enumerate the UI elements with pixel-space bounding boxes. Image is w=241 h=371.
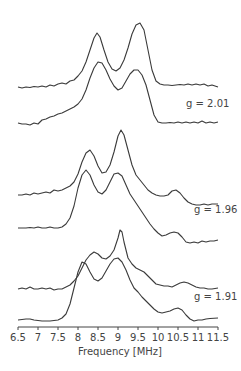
x-tick-label: 7.5 xyxy=(50,332,66,343)
x-tick-label: 10.5 xyxy=(167,332,189,343)
trace-g196-lower xyxy=(18,170,218,243)
x-axis-title: Frequency [MHz] xyxy=(78,346,162,357)
x-tick-label: 9.5 xyxy=(130,332,146,343)
x-tick-label: 9 xyxy=(115,332,121,343)
trace-g191-lower xyxy=(18,258,218,321)
x-tick-label: 7 xyxy=(35,332,41,343)
x-tick-label: 6.5 xyxy=(10,332,26,343)
x-tick-label: 11.5 xyxy=(207,332,229,343)
x-tick-label: 11 xyxy=(192,332,205,343)
x-axis: 6.5 7 7.5 8 8.5 9 9.5 10 10.5 11 11.5 Fr… xyxy=(10,327,229,357)
spectrum-group-g-1.96 xyxy=(18,130,218,243)
g-label-1.91: g = 1.91 xyxy=(194,291,237,302)
spectrum-group-g-1.91 xyxy=(18,230,218,321)
spectra-chart: g = 2.01 g = 1.96 g = 1.91 6.5 7 7.5 8 8… xyxy=(0,0,241,371)
x-tick-label: 10 xyxy=(152,332,165,343)
g-label-1.96: g = 1.96 xyxy=(194,204,237,215)
trace-g191-upper xyxy=(18,230,218,290)
spectrum-group-g-2.01 xyxy=(18,23,218,125)
trace-g201-upper xyxy=(18,23,218,88)
trace-g201-lower xyxy=(18,62,218,125)
g-label-2.01: g = 2.01 xyxy=(186,98,229,109)
x-tick-label: 8 xyxy=(75,332,81,343)
trace-g196-upper xyxy=(18,130,218,205)
x-tick-label: 8.5 xyxy=(90,332,106,343)
